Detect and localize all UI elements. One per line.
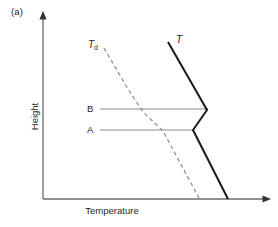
axes-group [39,11,271,203]
figure-panel-a: (a) Td T B A Temperature Height [0,0,278,227]
x-axis-arrowhead [263,195,272,202]
x-axis-title-text: Temperature [85,205,138,216]
level-label-b: B [87,103,93,114]
dewpoint-curve-label: Td [88,39,98,50]
level-lines-group [100,109,208,130]
sounding-diagram-svg [0,0,278,227]
y-axis-title: Height [29,57,40,177]
temperature-curve-label: T [176,34,182,45]
x-axis-title: Temperature [0,205,278,216]
y-axis-arrowhead [39,11,46,20]
dewpoint-label-subscript: d [94,44,98,51]
temperature-label-text: T [176,34,182,45]
temperature-curve [168,42,228,199]
level-label-a: A [87,124,93,135]
